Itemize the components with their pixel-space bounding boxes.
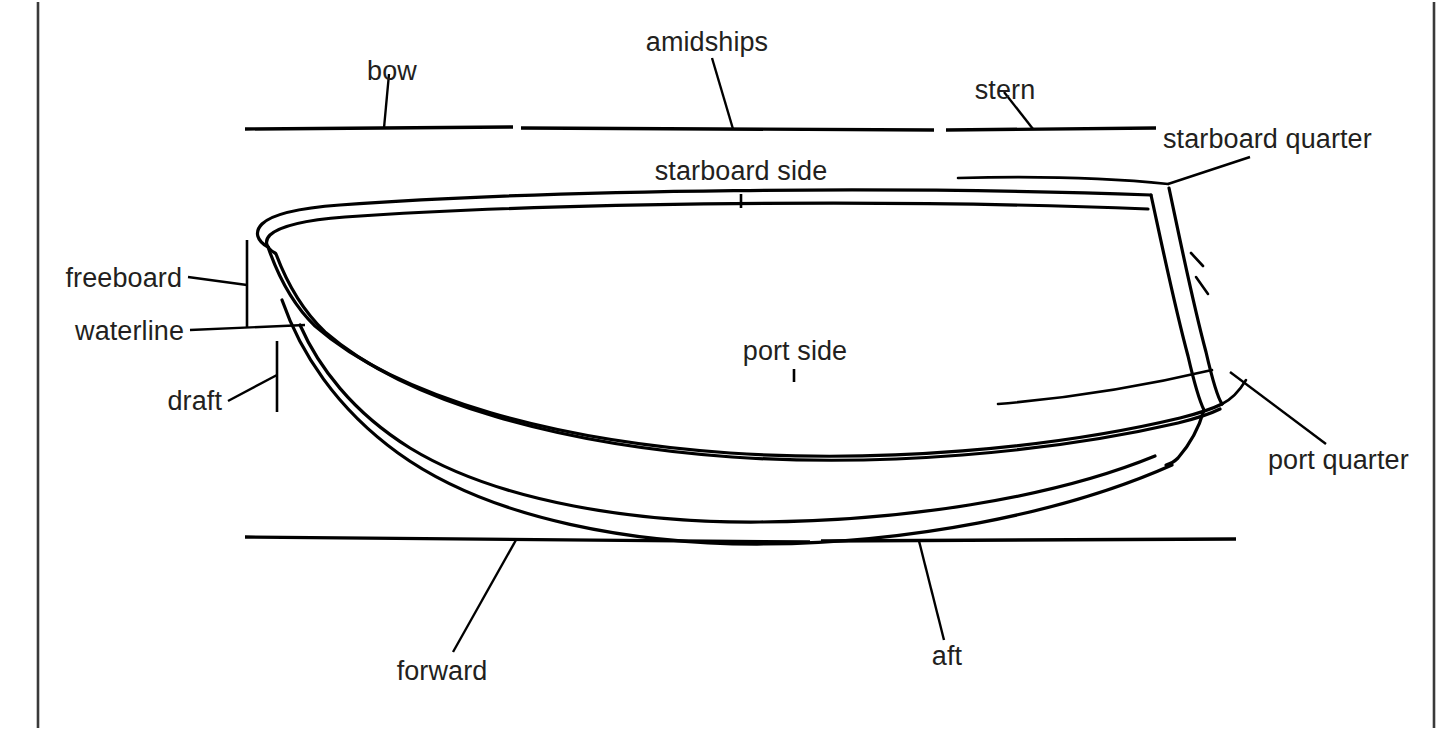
aft-leader bbox=[919, 541, 944, 640]
label-draft: draft bbox=[167, 386, 222, 416]
aft-reference-line bbox=[821, 539, 1236, 541]
label-bow: bow bbox=[367, 56, 417, 86]
label-stern: stern bbox=[975, 75, 1036, 105]
aft-deck-edge bbox=[958, 177, 1168, 184]
draft-leader bbox=[228, 375, 277, 401]
label-forward: forward bbox=[397, 656, 488, 686]
top-reference-lines bbox=[245, 127, 1156, 130]
forward-leader bbox=[453, 540, 516, 652]
hull-keel-bottom bbox=[282, 300, 1172, 544]
label-freeboard: freeboard bbox=[66, 263, 182, 293]
label-starboard-side: starboard side bbox=[655, 156, 828, 186]
bow-reference-line bbox=[245, 127, 513, 129]
label-port-side: port side bbox=[743, 336, 847, 366]
stern-reference-line bbox=[946, 128, 1156, 130]
amidships-leader bbox=[712, 58, 733, 129]
hull-waterline-stripe bbox=[300, 325, 1155, 522]
top-leader-lines bbox=[384, 58, 1033, 129]
transom-gap-detail-upper bbox=[1191, 253, 1203, 266]
label-aft: aft bbox=[932, 641, 963, 671]
diagram-canvas: bow amidships stern starboard side starb… bbox=[0, 0, 1454, 730]
starboard-quarter-leader bbox=[1168, 157, 1250, 184]
label-amidships: amidships bbox=[646, 27, 768, 57]
hull-gunwale-outer bbox=[257, 190, 1151, 247]
page-frame bbox=[38, 2, 1434, 728]
label-port-quarter: port quarter bbox=[1268, 445, 1409, 475]
transom-gap-detail-lower bbox=[1196, 277, 1208, 294]
hull-gunwale-inner bbox=[267, 203, 1148, 253]
label-waterline: waterline bbox=[74, 316, 184, 346]
label-starboard-quarter: starboard quarter bbox=[1163, 124, 1372, 154]
boat-terminology-diagram: bow amidships stern starboard side starb… bbox=[0, 0, 1454, 730]
freeboard-leader bbox=[188, 277, 247, 285]
forward-reference-line bbox=[245, 537, 810, 542]
transom-outer-edge bbox=[1169, 188, 1222, 404]
bottom-reference-lines bbox=[245, 537, 1236, 542]
hull-rubrail-detail bbox=[998, 370, 1212, 404]
stern-knuckle bbox=[1222, 380, 1246, 404]
bottom-leader-lines bbox=[453, 540, 944, 652]
amidships-reference-line bbox=[521, 128, 934, 130]
